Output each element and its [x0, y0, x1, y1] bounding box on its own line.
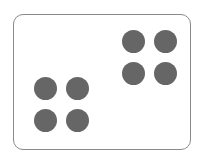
bottom-left-group-dot [66, 109, 89, 132]
bottom-left-group-dot [34, 77, 57, 100]
top-right-group-dot [154, 30, 177, 53]
bottom-left-group-dot [34, 109, 57, 132]
bottom-left-group-dot [66, 77, 89, 100]
top-right-group-dot [154, 62, 177, 85]
top-right-group-dot [122, 30, 145, 53]
top-right-group-dot [122, 62, 145, 85]
